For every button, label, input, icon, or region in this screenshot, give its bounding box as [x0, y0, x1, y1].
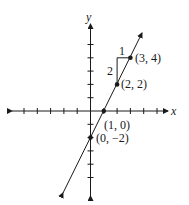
point-label-3-4: (3, 4): [135, 51, 161, 65]
point-3-4: [128, 56, 133, 61]
point-2-2: [115, 82, 120, 87]
point-label-1-0: (1, 0): [104, 118, 130, 132]
y-axis-label: y: [85, 10, 92, 24]
x-axis-label: x: [170, 104, 177, 118]
point-1-0: [102, 109, 107, 114]
rise-label: 2: [107, 64, 113, 78]
point-label-2-2: (2, 2): [121, 77, 147, 91]
coordinate-plane: y x 1 2 (3, 4) (2, 2) (1, 0) (0, −2): [0, 0, 189, 205]
run-label: 1: [119, 44, 125, 58]
point-label-0-neg2: (0, −2): [96, 131, 129, 145]
point-0-neg2: [88, 135, 93, 140]
